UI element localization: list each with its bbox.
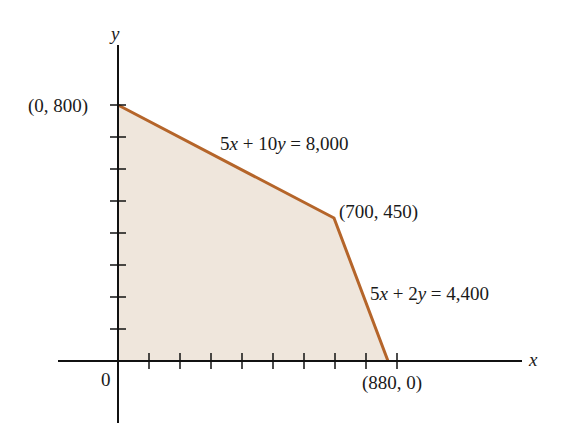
constraint-label-2: 5x + 2y = 4,400 — [370, 283, 489, 304]
constraint-label-1: 5x + 10y = 8,000 — [220, 133, 349, 154]
y-axis-label: y — [109, 23, 120, 44]
point-label-880-0: (880, 0) — [362, 372, 422, 394]
chart-canvas: y x 0 (0, 800) (700, 450) (880, 0) 5x + … — [0, 0, 566, 447]
x-axis-label: x — [528, 349, 538, 370]
origin-label: 0 — [101, 369, 111, 390]
point-label-700-450: (700, 450) — [339, 201, 418, 223]
point-label-0-800: (0, 800) — [28, 95, 88, 117]
